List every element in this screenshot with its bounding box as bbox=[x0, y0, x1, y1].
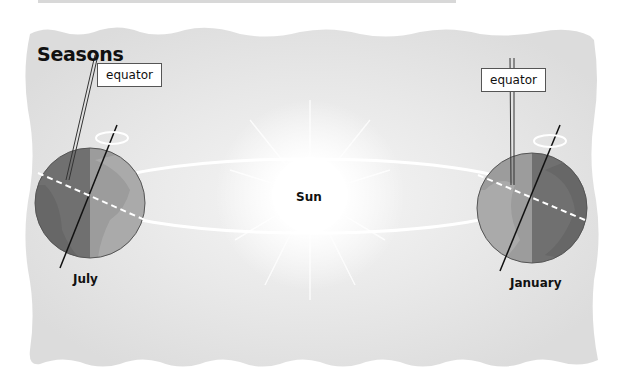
equator-callout-left: equator bbox=[97, 63, 162, 87]
july-label: July bbox=[73, 272, 98, 286]
earth-july bbox=[35, 148, 145, 258]
diagram-title: Seasons bbox=[37, 43, 124, 65]
january-label: January bbox=[510, 276, 562, 290]
equator-callout-right: equator bbox=[481, 68, 546, 92]
sun-label: Sun bbox=[296, 190, 322, 204]
earth-january bbox=[477, 153, 587, 263]
